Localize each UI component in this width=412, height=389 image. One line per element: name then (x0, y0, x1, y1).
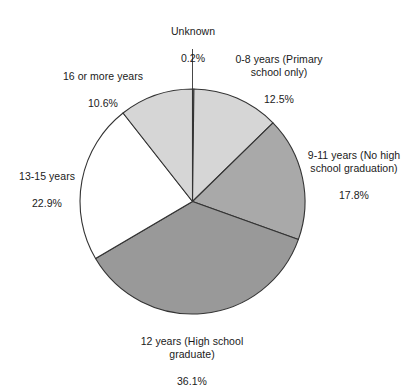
slice-label-12-years: 12 years (High school graduate) 36.1% (107, 322, 277, 389)
slice-label-unknown-name: Unknown (140, 25, 246, 38)
slice-label-0-8-years: 0-8 years (Primary school only) 12.5% (218, 40, 340, 119)
slice-label-16-or-more-years-percent: 10.6% (48, 97, 158, 110)
slice-label-9-11-years-percent: 17.8% (292, 189, 412, 202)
slice-label-12-years-percent: 36.1% (107, 375, 277, 388)
slice-label-13-15-years: 13-15 years 22.9% (6, 157, 88, 223)
slice-label-13-15-years-name: 13-15 years (6, 170, 88, 183)
slice-label-16-or-more-years-name: 16 or more years (48, 70, 158, 83)
slice-label-9-11-years: 9-11 years (No high school graduation) 1… (292, 136, 412, 215)
slice-label-12-years-name: 12 years (High school graduate) (107, 335, 277, 361)
slice-label-0-8-years-name: 0-8 years (Primary school only) (218, 53, 340, 79)
slice-label-9-11-years-name: 9-11 years (No high school graduation) (292, 149, 412, 175)
slice-label-0-8-years-percent: 12.5% (218, 93, 340, 106)
slice-label-16-or-more-years: 16 or more years 10.6% (48, 57, 158, 123)
slice-label-13-15-years-percent: 22.9% (6, 197, 88, 210)
